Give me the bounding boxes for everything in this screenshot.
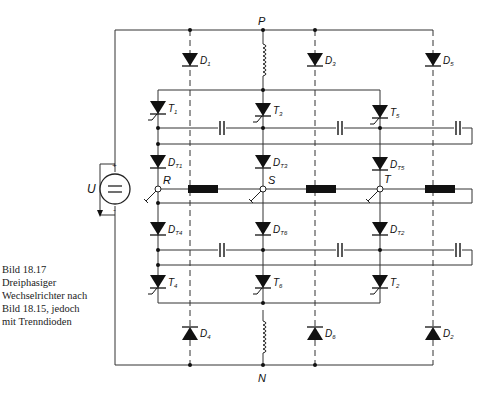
- source-u-label: U: [87, 182, 96, 196]
- label-dt5: DT5: [390, 159, 405, 171]
- label-t4: T4: [168, 277, 178, 289]
- caption-line: mit Trenndioden: [2, 315, 87, 328]
- diode-d3-icon: [307, 53, 323, 66]
- node-p-label: P: [258, 15, 266, 27]
- thyristor-t5-icon: [370, 105, 388, 124]
- caption-line: Bild 18.15, jedoch: [2, 302, 87, 315]
- diode-dt6-icon: [255, 222, 271, 235]
- label-d4: D4: [200, 328, 211, 340]
- label-t3: T3: [273, 105, 283, 117]
- caption-line: Dreiphasiger: [2, 276, 87, 289]
- dc-source-icon: [100, 174, 130, 204]
- thyristor-t1-icon: [148, 101, 166, 120]
- diode-d6-icon: [307, 327, 323, 340]
- circuit-diagram: P N R S T U + - D1 D3 D5 D4 D6 D2 T1 T3 …: [0, 0, 494, 393]
- figure-caption: Bild 18.17 Dreiphasiger Wechselrichter n…: [2, 263, 87, 328]
- node-r-label: R: [163, 174, 171, 186]
- node-t-label: T: [384, 173, 392, 185]
- diode-dt3-icon: [255, 155, 271, 168]
- source-minus: -: [113, 205, 116, 214]
- thyristor-t2-icon: [370, 275, 388, 294]
- node-s-label: S: [268, 174, 276, 186]
- diode-d4-icon: [182, 327, 198, 340]
- label-d6: D6: [325, 328, 336, 340]
- diode-d1-icon: [182, 53, 198, 66]
- label-dt3: DT3: [273, 157, 288, 169]
- label-d2: D2: [443, 328, 454, 340]
- label-dt6: DT6: [273, 224, 288, 236]
- label-t1: T1: [168, 103, 177, 115]
- diode-d2-icon: [425, 327, 441, 340]
- inductor-top-icon: [263, 44, 266, 76]
- label-d1: D1: [200, 55, 211, 67]
- diode-dt5-icon: [372, 157, 388, 170]
- node-n-label: N: [258, 372, 266, 384]
- diode-d5-icon: [425, 53, 441, 66]
- thyristor-t4-icon: [148, 275, 166, 294]
- label-d3: D3: [325, 55, 336, 67]
- diode-dt2-icon: [372, 222, 388, 235]
- label-t2: T2: [390, 277, 400, 289]
- caption-number: Bild 18.17: [2, 263, 87, 276]
- diode-dt1-icon: [150, 155, 166, 168]
- label-dt1: DT1: [168, 157, 182, 169]
- thyristor-t6-icon: [253, 275, 271, 294]
- label-d5: D5: [443, 55, 454, 67]
- thyristor-t3-icon: [253, 103, 271, 122]
- label-t5: T5: [390, 107, 400, 119]
- label-dt2: DT2: [390, 224, 405, 236]
- inductor-bottom-icon: [263, 321, 266, 353]
- source-plus: +: [112, 161, 117, 170]
- caption-line: Wechselrichter nach: [2, 289, 87, 302]
- label-dt4: DT4: [168, 224, 183, 236]
- label-t6: T6: [273, 277, 283, 289]
- diode-dt4-icon: [150, 222, 166, 235]
